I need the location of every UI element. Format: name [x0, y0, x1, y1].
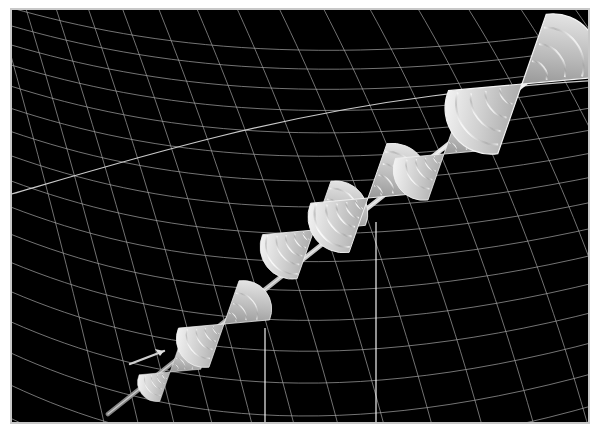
- figure-canvas: [0, 0, 600, 432]
- plot-area: [10, 8, 590, 424]
- plot-background: [12, 10, 588, 422]
- 3d-surface-plot: [12, 10, 588, 422]
